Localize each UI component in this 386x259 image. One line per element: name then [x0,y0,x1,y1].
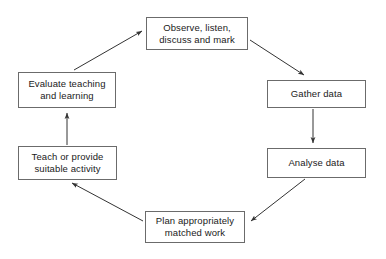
node-plan-line2: matched work [153,227,237,239]
node-gather-data-line1: Gather data [288,88,345,100]
node-gather-data: Gather data [267,80,366,108]
node-plan: Plan appropriately matched work [145,211,245,243]
node-evaluate: Evaluate teaching and learning [18,72,116,108]
node-teach: Teach or provide suitable activity [18,146,117,180]
node-teach-line1: Teach or provide [29,151,107,163]
node-plan-line1: Plan appropriately [153,215,237,227]
cycle-diagram: Observe, listen, discuss and mark Gather… [0,0,386,259]
node-evaluate-line1: Evaluate teaching [25,78,108,90]
arrow-observe-to-gather [250,40,304,75]
node-observe-line1: Observe, listen, [156,22,238,34]
node-evaluate-line2: and learning [25,90,108,102]
node-observe: Observe, listen, discuss and mark [146,17,248,50]
arrow-evaluate-to-observe [74,31,142,70]
node-analyse-data-line1: Analyse data [285,157,347,169]
arrow-analyse-to-plan [251,179,305,221]
arrow-plan-to-teach [72,183,143,221]
node-analyse-data: Analyse data [267,148,366,178]
node-teach-line2: suitable activity [29,163,107,175]
node-observe-line2: discuss and mark [156,34,238,46]
